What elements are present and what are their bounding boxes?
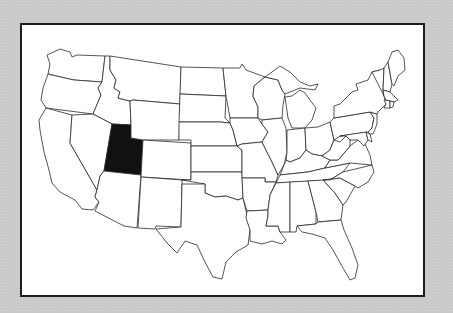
state-wyoming[interactable] xyxy=(130,100,180,140)
state-south-dakota[interactable] xyxy=(179,94,230,123)
state-rhode-island[interactable] xyxy=(390,101,394,108)
state-kansas[interactable] xyxy=(191,146,242,172)
state-new-mexico[interactable] xyxy=(138,177,182,229)
state-florida[interactable] xyxy=(297,220,358,280)
state-colorado[interactable] xyxy=(141,140,191,180)
state-michigan-lower[interactable] xyxy=(285,90,316,128)
state-arizona[interactable] xyxy=(95,171,141,228)
state-north-dakota[interactable] xyxy=(180,67,226,96)
us-map xyxy=(0,0,453,313)
state-montana[interactable] xyxy=(110,56,181,104)
